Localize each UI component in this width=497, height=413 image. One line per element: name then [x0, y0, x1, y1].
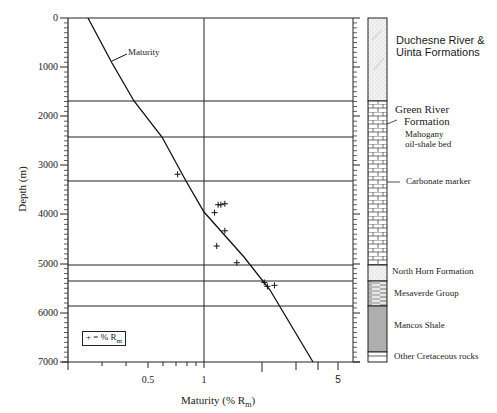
y-tick-6000: 6000	[18, 307, 58, 318]
mancos-unit	[368, 306, 387, 352]
label-duchesne: Duchesne River & Uinta Formations	[396, 34, 485, 58]
label-mahogany-line2: oil-shale bed	[405, 140, 451, 150]
y-tick-5000: 5000	[18, 258, 58, 269]
duchesne-unit	[368, 18, 387, 101]
label-duchesne-line2: Uinta Formations	[396, 46, 485, 58]
rm-marker	[214, 243, 220, 249]
legend-sub: m	[116, 337, 121, 345]
rm-marker	[218, 202, 224, 208]
y-tick-1000: 1000	[18, 61, 58, 72]
green-river-unit	[368, 101, 387, 265]
maturity-curve-label: Maturity	[128, 48, 160, 58]
other-cretaceous-unit	[368, 352, 387, 362]
y-axis-ticks	[60, 18, 360, 362]
x-axis-ticks	[68, 362, 338, 372]
maturity-leader-line	[112, 54, 127, 61]
label-carbonate-marker: Carbonate marker	[406, 177, 471, 187]
y-tick-3000: 3000	[18, 159, 58, 170]
x-axis-label-text: Maturity (% R	[181, 394, 245, 406]
label-mesaverde: Mesaverde Group	[394, 289, 459, 299]
label-green-river-line2: Formation	[395, 115, 450, 127]
formation-boundaries	[68, 101, 353, 306]
legend-text: + = % R	[86, 332, 116, 342]
label-duchesne-line1: Duchesne River &	[396, 34, 485, 46]
north-horn-unit	[368, 265, 387, 281]
mesaverde-unit	[368, 281, 387, 306]
x-tick-0.5: 0.5	[133, 374, 163, 385]
label-green-river-line1: Green River	[395, 103, 450, 115]
legend: + = % Rm	[82, 331, 126, 346]
x-tick-5: 5	[323, 374, 353, 385]
label-north-horn: North Horn Formation	[392, 267, 474, 277]
x-tick-1: 1	[189, 374, 219, 385]
y-tick-4000: 4000	[18, 208, 58, 219]
rm-marker	[175, 171, 181, 177]
x-axis-label-close: )	[251, 394, 255, 406]
rm-marker	[212, 210, 218, 216]
rm-marker	[222, 201, 228, 207]
label-mahogany: Mahogany oil-shale bed	[405, 130, 451, 150]
y-tick-7000: 7000	[18, 356, 58, 367]
y-axis-minor-ticks	[64, 23, 357, 357]
label-green-river: Green River Formation	[395, 103, 450, 127]
y-tick-2000: 2000	[18, 110, 58, 121]
rm-marker	[271, 282, 277, 288]
plot-area	[62, 18, 360, 362]
stratigraphic-column	[368, 18, 400, 362]
y-tick-0: 0	[18, 12, 58, 23]
label-mancos: Mancos Shale	[394, 321, 445, 331]
x-axis-label: Maturity (% Rm)	[181, 394, 255, 410]
label-other-cretaceous: Other Cretaceous rocks	[394, 352, 478, 362]
maturity-curve	[88, 18, 313, 362]
